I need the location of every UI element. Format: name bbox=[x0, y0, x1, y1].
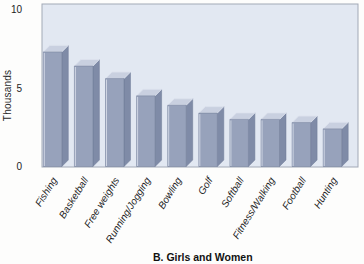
bar-front-face bbox=[199, 113, 218, 166]
bar-front-face bbox=[137, 96, 156, 167]
bar-chart-plot: 0510FishingBasketballFree weightsRunning… bbox=[0, 0, 364, 264]
bar-side-face bbox=[93, 60, 100, 167]
bar-front-face bbox=[106, 79, 125, 167]
bar-front-face bbox=[323, 129, 342, 167]
bar-side-face bbox=[311, 116, 318, 166]
bar-front-face bbox=[74, 66, 93, 166]
bar-side-face bbox=[186, 99, 193, 167]
bar-side-face bbox=[248, 113, 255, 167]
bar-side-face bbox=[155, 89, 162, 166]
bar-side-face bbox=[124, 72, 131, 166]
category-label: Hunting bbox=[312, 175, 340, 210]
bar-front-face bbox=[230, 119, 249, 166]
chart-caption: B. Girls and Women bbox=[153, 251, 253, 263]
y-tick-label: 0 bbox=[16, 161, 22, 172]
bar-side-face bbox=[342, 122, 349, 166]
category-label: Basketball bbox=[57, 175, 91, 221]
category-label: Softball bbox=[219, 175, 246, 210]
bar-front-face bbox=[43, 52, 62, 167]
category-label: Fishing bbox=[33, 175, 60, 209]
bar-chart-figure: Thousands 0510FishingBasketballFree weig… bbox=[0, 0, 364, 264]
bar-front-face bbox=[168, 105, 187, 166]
category-label: Golf bbox=[196, 174, 216, 196]
bar-side-face bbox=[62, 45, 69, 166]
bar-front-face bbox=[292, 123, 311, 167]
category-label: Football bbox=[280, 175, 309, 212]
bar-front-face bbox=[261, 119, 280, 166]
y-tick-label: 10 bbox=[11, 4, 23, 15]
category-label: Bowling bbox=[156, 175, 184, 211]
bar-side-face bbox=[280, 113, 287, 167]
bar-side-face bbox=[217, 107, 224, 167]
y-tick-label: 5 bbox=[16, 83, 22, 94]
